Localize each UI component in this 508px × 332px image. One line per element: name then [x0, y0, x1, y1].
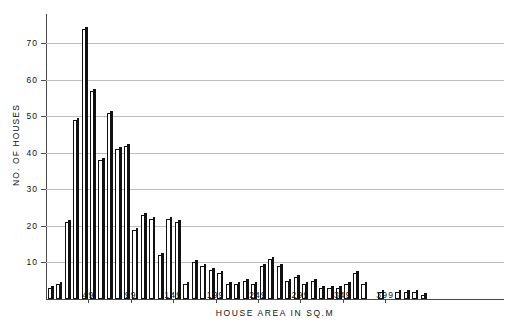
plot-area: 10203040506070	[46, 14, 504, 300]
bar	[175, 222, 181, 299]
bar-face	[175, 222, 179, 299]
x-tick-label: 199	[207, 290, 225, 300]
bar-face	[124, 146, 128, 299]
x-tick-label: 149	[164, 290, 182, 300]
bar-face	[285, 281, 289, 299]
bar	[65, 222, 71, 299]
y-tick-label: 60	[12, 80, 38, 81]
bar	[192, 262, 198, 299]
bar	[226, 284, 232, 299]
bar-face	[319, 288, 323, 299]
bar-face	[200, 266, 204, 299]
y-tick-10	[41, 262, 46, 263]
bar-face	[327, 288, 331, 299]
bar	[311, 281, 317, 299]
bar	[361, 284, 367, 299]
bar-face	[107, 113, 111, 299]
x-tick	[216, 300, 217, 303]
y-tick-label: 30	[12, 189, 38, 190]
bar	[73, 120, 79, 299]
bar-face	[412, 292, 416, 299]
bar-face	[311, 281, 315, 299]
bar	[421, 295, 427, 299]
bar	[115, 149, 121, 299]
bar	[243, 281, 249, 299]
bar-series	[47, 14, 504, 299]
bar-face	[48, 288, 52, 299]
bar	[48, 288, 54, 299]
x-axis-line	[46, 299, 504, 300]
bar-face	[98, 160, 102, 299]
bar	[319, 288, 325, 299]
bar	[132, 230, 138, 299]
bar-face	[132, 230, 136, 299]
bar-face	[141, 215, 145, 299]
y-tick-label: 10	[12, 262, 38, 263]
y-tick-30	[41, 189, 46, 190]
bar-face	[183, 284, 187, 299]
bar-face	[268, 259, 272, 299]
bar-face	[353, 273, 357, 299]
bar-face	[192, 262, 196, 299]
y-tick-20	[41, 226, 46, 227]
bar-face	[56, 284, 60, 299]
x-tick	[258, 300, 259, 303]
bar	[56, 284, 62, 299]
bar	[149, 219, 155, 299]
y-tick-label: 70	[12, 43, 38, 44]
bar	[166, 219, 172, 299]
bar-face	[404, 292, 408, 299]
bar-face	[149, 219, 153, 299]
bar	[200, 266, 206, 299]
bar-face	[90, 91, 94, 299]
bar	[124, 146, 130, 299]
x-tick-label: 349	[334, 290, 352, 300]
bar-face	[395, 292, 399, 299]
bar	[234, 284, 240, 299]
y-tick-label: 40	[12, 153, 38, 154]
bar-face	[115, 149, 119, 299]
bar-face	[82, 29, 86, 299]
x-tick	[88, 300, 89, 303]
y-axis-title: NO. OF HOUSES	[11, 85, 21, 205]
x-tick-label: 299	[292, 290, 310, 300]
bar	[98, 160, 104, 299]
x-tick-label: 99	[125, 290, 137, 300]
bar	[404, 292, 410, 299]
x-tick-label: 399	[376, 290, 394, 300]
bar-face	[158, 255, 162, 299]
x-tick	[343, 300, 344, 303]
x-tick-label: 49	[82, 290, 94, 300]
y-tick-label: 20	[12, 226, 38, 227]
bar	[353, 273, 359, 299]
bar-face	[361, 284, 365, 299]
bar	[268, 259, 274, 299]
x-tick	[300, 300, 301, 303]
bar	[327, 288, 333, 299]
histogram-figure: NO. OF HOUSES 10203040506070 49991491992…	[0, 0, 508, 332]
x-axis-title: HOUSE AREA IN SQ.M	[46, 308, 504, 318]
bar	[395, 292, 401, 299]
bar-face	[421, 295, 425, 299]
y-tick-70	[41, 43, 46, 44]
x-tick-label: 249	[249, 290, 267, 300]
bar	[158, 255, 164, 299]
bar-face	[73, 120, 77, 299]
bar-face	[65, 222, 69, 299]
bar-face	[226, 284, 230, 299]
bar	[277, 266, 283, 299]
y-tick-40	[41, 153, 46, 154]
bar-face	[277, 266, 281, 299]
bar	[141, 215, 147, 299]
bar	[90, 91, 96, 299]
y-tick-60	[41, 80, 46, 81]
x-tick	[173, 300, 174, 303]
bar-face	[166, 219, 170, 299]
y-tick-50	[41, 116, 46, 117]
bar	[107, 113, 113, 299]
x-tick	[385, 300, 386, 303]
bar	[285, 281, 291, 299]
bar	[183, 284, 189, 299]
bar-face	[243, 281, 247, 299]
y-tick-label: 50	[12, 116, 38, 117]
